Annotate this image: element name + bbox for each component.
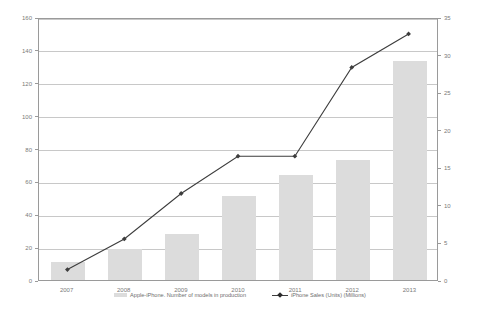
y-right-tick-5: 5 — [444, 240, 472, 246]
chart-container: Apple-iPhone. Number of models in produc… — [0, 0, 480, 315]
y-right-tickmark — [438, 168, 441, 169]
bar-swatch-icon — [114, 293, 127, 297]
x-tick-2007: 2007 — [44, 287, 90, 293]
y-right-tickmark — [438, 281, 441, 282]
y-left-tickmark — [35, 18, 38, 19]
line-marker-2013 — [406, 32, 411, 37]
y-right-tick-35: 35 — [444, 15, 472, 21]
y-left-tick-0: 0 — [4, 278, 32, 284]
y-right-tick-20: 20 — [444, 128, 472, 134]
y-left-tick-160: 160 — [4, 15, 32, 21]
y-right-tickmark — [438, 243, 441, 244]
y-right-tickmark — [438, 55, 441, 56]
line-series-layer — [39, 19, 437, 280]
y-left-tick-40: 40 — [4, 212, 32, 218]
y-left-tickmark — [35, 281, 38, 282]
x-tick-2009: 2009 — [158, 287, 204, 293]
y-left-tickmark — [35, 182, 38, 183]
plot-area — [38, 18, 438, 281]
y-left-tickmark — [35, 215, 38, 216]
y-left-tickmark — [35, 116, 38, 117]
x-tick-2013: 2013 — [386, 287, 432, 293]
x-tick-2011: 2011 — [272, 287, 318, 293]
y-right-tick-10: 10 — [444, 203, 472, 209]
line-marker-2007 — [65, 267, 70, 272]
line-path — [67, 34, 408, 270]
y-right-tickmark — [438, 93, 441, 94]
y-left-tickmark — [35, 248, 38, 249]
y-right-tick-15: 15 — [444, 165, 472, 171]
x-tick-2010: 2010 — [215, 287, 261, 293]
y-left-tickmark — [35, 50, 38, 51]
y-left-tick-20: 20 — [4, 245, 32, 251]
y-left-tick-60: 60 — [4, 179, 32, 185]
line-marker-icon — [272, 293, 288, 298]
y-left-tickmark — [35, 149, 38, 150]
y-left-tick-140: 140 — [4, 48, 32, 54]
y-right-tick-25: 25 — [444, 90, 472, 96]
y-right-tickmark — [438, 130, 441, 131]
x-tick-2012: 2012 — [329, 287, 375, 293]
y-right-tickmark — [438, 205, 441, 206]
y-right-tick-0: 0 — [444, 278, 472, 284]
x-tick-2008: 2008 — [101, 287, 147, 293]
y-right-tickmark — [438, 18, 441, 19]
y-left-tickmark — [35, 83, 38, 84]
y-left-tick-80: 80 — [4, 147, 32, 153]
y-left-tick-120: 120 — [4, 81, 32, 87]
y-left-tick-100: 100 — [4, 114, 32, 120]
y-right-tick-30: 30 — [444, 53, 472, 59]
